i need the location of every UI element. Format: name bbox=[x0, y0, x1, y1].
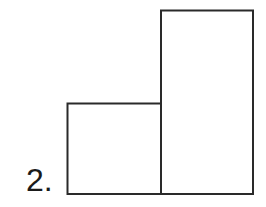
figure-number-label: 2. bbox=[26, 164, 53, 196]
diagram-canvas: 2. bbox=[0, 0, 266, 207]
left-square bbox=[68, 104, 162, 195]
right-tall-rectangle bbox=[161, 11, 253, 195]
